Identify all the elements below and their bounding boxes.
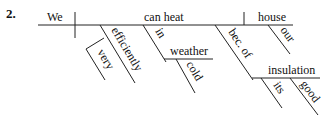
verb-word: can heat: [144, 10, 184, 24]
its-word: its: [271, 79, 289, 97]
subject-word: We: [47, 10, 63, 24]
sentence-diagram: 2. We can heat house efficiently very in…: [0, 0, 335, 121]
weather-word: weather: [170, 44, 208, 58]
good-word: good: [298, 77, 324, 105]
insulation-word: insulation: [268, 63, 315, 77]
very-connector: [86, 38, 104, 49]
because-of-word: bec. of: [226, 26, 256, 61]
cold-word: cold: [183, 58, 206, 83]
in-word: in: [152, 25, 169, 40]
object-word: house: [258, 10, 286, 24]
diagram-number: 2.: [6, 6, 16, 21]
